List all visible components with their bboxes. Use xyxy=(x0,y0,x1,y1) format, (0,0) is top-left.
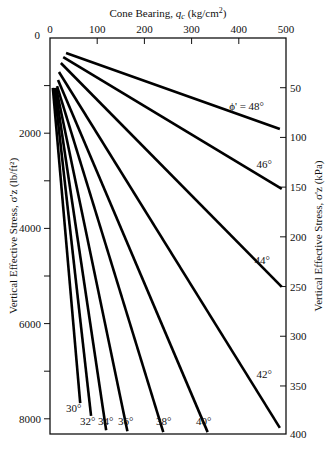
y-left-tick-label: 2000 xyxy=(19,127,42,139)
x-tick-label: 500 xyxy=(278,23,295,35)
y-right-tick-label: 400 xyxy=(290,428,307,440)
chart-canvas: Cone Bearing, qc (kg/cm2) 01002003004005… xyxy=(0,0,329,451)
y-left-tick-label: 8000 xyxy=(19,413,42,425)
x-axis-title: Cone Bearing, qc (kg/cm2) xyxy=(110,6,227,21)
x-axis-ticks: 0100200300400500 xyxy=(47,23,295,44)
series-labels: ϕ' = 48°46°44°42°40°38°36°34°32°30° xyxy=(66,100,272,427)
series-label: 40° xyxy=(196,415,211,427)
x-tick-label: 200 xyxy=(136,23,153,35)
series-label: 44° xyxy=(255,254,270,266)
series-line xyxy=(55,88,106,430)
y-right-tick-label: 200 xyxy=(290,231,307,243)
y-right-tick-label: 300 xyxy=(290,330,307,342)
series-label: 32° xyxy=(80,415,95,427)
y-axis-right-title: Vertical Effective Stress, σ'z (kPa) xyxy=(312,160,325,311)
y-axis-left-ticks: 02000400060008000 xyxy=(19,29,50,425)
x-tick-label: 400 xyxy=(231,23,248,35)
series-label: 46° xyxy=(257,158,272,170)
y-right-tick-label: 100 xyxy=(290,131,307,143)
series-line xyxy=(66,53,280,129)
series-label: ϕ' = 48° xyxy=(229,100,264,112)
x-tick-label: 300 xyxy=(183,23,200,35)
y-right-tick-label: 250 xyxy=(290,281,307,293)
series-label: 42° xyxy=(257,368,272,380)
y-left-tick-label: 4000 xyxy=(19,222,42,234)
series-label: 34° xyxy=(98,415,113,427)
y-axis-right-ticks: 50100150200250300350400 xyxy=(280,82,307,440)
y-axis-left-title: Vertical Effective Stress, σ'z (lb/ft²) xyxy=(7,158,20,314)
y-right-tick-label: 350 xyxy=(290,380,307,392)
x-tick-label: 0 xyxy=(47,23,53,35)
y-left-tick-label: 6000 xyxy=(19,318,42,330)
y-left-tick-label: 0 xyxy=(35,29,41,41)
series-label: 38° xyxy=(156,415,171,427)
y-right-tick-label: 150 xyxy=(290,181,307,193)
series-label: 36° xyxy=(118,415,133,427)
y-right-tick-label: 50 xyxy=(290,82,302,94)
x-tick-label: 100 xyxy=(89,23,106,35)
series-label: 30° xyxy=(66,402,81,414)
